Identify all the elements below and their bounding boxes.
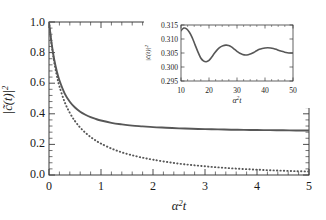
main-ytick-0.6: 0.6 <box>30 75 45 89</box>
main-xtick-3: 3 <box>202 179 208 193</box>
inset-xtick-40: 40 <box>261 86 269 95</box>
main-xtick-1: 1 <box>98 179 104 193</box>
inset-ytick-0.300: 0.300 <box>161 63 178 72</box>
main-ytick-0.2: 0.2 <box>30 136 45 150</box>
inset-xtick-50: 50 <box>289 86 297 95</box>
main-xtick-0: 0 <box>46 179 52 193</box>
figure-canvas: |c̃(t)|2 1.0 0.8 0.6 0.4 0.2 0.0 0 1 2 3… <box>0 0 326 220</box>
inset-plot: |c̃(t)|2 0.315 0.310 0.305 0.300 0.295 1… <box>144 12 313 108</box>
inset-ytick-0.305: 0.305 <box>161 49 178 58</box>
main-x-axis-label: α2t <box>172 198 187 214</box>
main-ytick-1.0: 1.0 <box>30 15 45 29</box>
main-xtick-2: 2 <box>150 179 156 193</box>
main-y-axis-label: |c̃(t)|2 <box>0 85 15 114</box>
inset-ytick-0.315: 0.315 <box>161 21 178 30</box>
inset-xtick-30: 30 <box>233 86 241 95</box>
main-ytick-0.0: 0.0 <box>30 167 45 181</box>
inset-ytick-0.295: 0.295 <box>161 77 178 86</box>
main-ytick-0.8: 0.8 <box>30 45 45 59</box>
main-xtick-5: 5 <box>306 179 312 193</box>
inset-xtick-20: 20 <box>205 86 213 95</box>
inset-ytick-0.310: 0.310 <box>161 35 178 44</box>
main-xtick-4: 4 <box>254 179 260 193</box>
main-ytick-0.4: 0.4 <box>30 106 45 120</box>
inset-xtick-10: 10 <box>177 86 185 95</box>
